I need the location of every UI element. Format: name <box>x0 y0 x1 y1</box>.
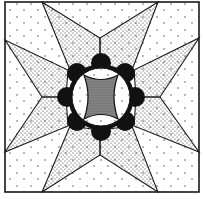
quilt-block-illustration <box>0 0 203 199</box>
center-curved-square <box>84 75 118 119</box>
